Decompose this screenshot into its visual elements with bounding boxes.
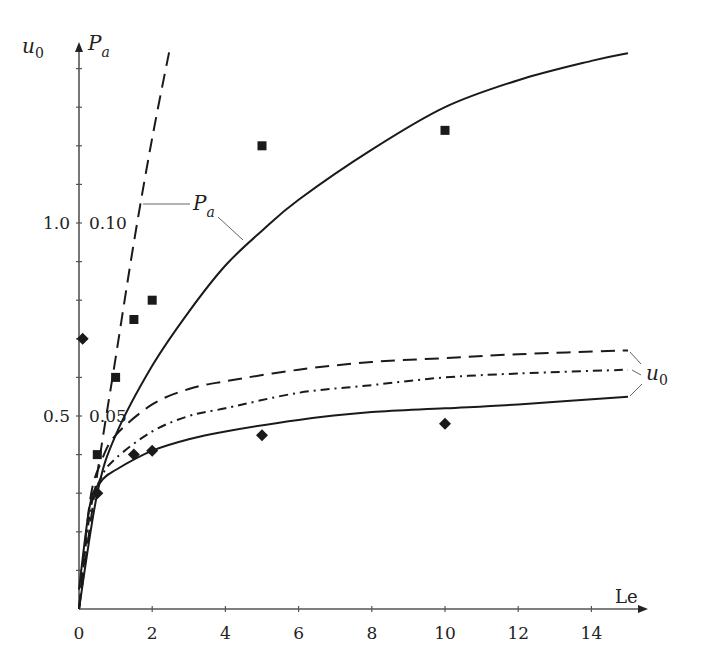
curve-u0-dashed bbox=[79, 350, 628, 609]
x-tick-label: 6 bbox=[293, 623, 304, 643]
y-tick-label-u0: 0.5 bbox=[43, 406, 70, 426]
x-axis-title: Le bbox=[615, 586, 638, 607]
axis-ticks: 024681012140.51.00.050.10 bbox=[43, 69, 602, 643]
diamond-marker-icon bbox=[128, 449, 140, 461]
y-axis-title-pa: Pa bbox=[87, 31, 110, 60]
square-marker-icon bbox=[258, 141, 267, 150]
diamond-marker-icon bbox=[439, 418, 451, 430]
pa-leader-line bbox=[218, 217, 243, 240]
x-tick-label: 10 bbox=[434, 623, 456, 643]
diamond-marker-icon bbox=[146, 445, 158, 457]
x-tick-label: 0 bbox=[74, 623, 85, 643]
axes bbox=[75, 42, 648, 613]
u0-annotation-label: u0 bbox=[646, 361, 668, 388]
x-tick-label: 4 bbox=[220, 623, 231, 643]
x-axis-arrow-icon bbox=[638, 605, 648, 613]
square-marker-icon bbox=[111, 373, 120, 382]
pa-annotation-label: Pa bbox=[192, 191, 215, 220]
x-tick-label: 14 bbox=[581, 623, 603, 643]
square-marker-icon bbox=[129, 315, 138, 324]
x-tick-label: 12 bbox=[507, 623, 529, 643]
y-axis-arrow-icon bbox=[75, 42, 83, 52]
x-tick-label: 2 bbox=[147, 623, 158, 643]
square-marker-icon bbox=[441, 126, 450, 135]
annotations bbox=[143, 204, 642, 396]
y-axis-title-u0: u0 bbox=[22, 34, 44, 61]
u0-leader-line bbox=[632, 370, 641, 375]
chart: 024681012140.51.00.050.10 u0 Pa Le Pa u0 bbox=[0, 0, 701, 671]
y-tick-label-pa: 0.10 bbox=[89, 213, 127, 233]
data-markers bbox=[77, 126, 451, 499]
x-tick-label: 8 bbox=[366, 623, 377, 643]
y-tick-label-u0: 1.0 bbox=[43, 213, 70, 233]
square-marker-icon bbox=[93, 450, 102, 459]
u0-leader-line bbox=[630, 384, 642, 396]
plot-series bbox=[79, 45, 628, 609]
u0-leader-line bbox=[630, 352, 641, 364]
curve-pa-solid bbox=[79, 53, 628, 609]
curve-u0-dash-dot bbox=[79, 370, 628, 609]
square-marker-icon bbox=[148, 296, 157, 305]
diamond-marker-icon bbox=[256, 429, 268, 441]
